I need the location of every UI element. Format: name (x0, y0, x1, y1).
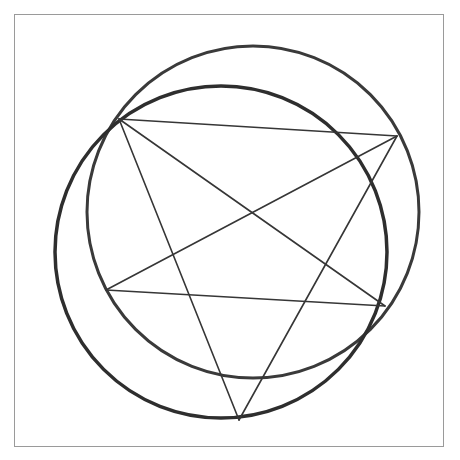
star-edge-top-left-to-right (119, 119, 397, 136)
figure-caption (0, 452, 460, 460)
pentagram-diagram (0, 0, 460, 460)
star-lines-group (106, 119, 397, 420)
lower-left-circle (55, 86, 387, 418)
star-edge-top-left-to-bottom (119, 119, 239, 420)
star-edge-left-to-lower-right (106, 290, 385, 306)
circles-group (55, 46, 419, 418)
